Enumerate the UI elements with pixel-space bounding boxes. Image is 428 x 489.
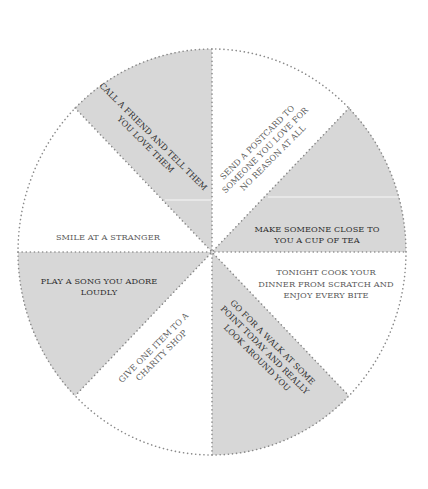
label-line: TONIGHT COOK YOUR xyxy=(276,267,376,277)
label-line: PLAY A SONG YOU ADORE xyxy=(41,276,158,286)
label-line: LOUDLY xyxy=(81,287,118,297)
label-line: MAKE SOMEONE CLOSE TO xyxy=(254,224,379,234)
label-line: SMILE AT A STRANGER xyxy=(56,232,161,242)
label-line: YOU A CUP OF TEA xyxy=(273,235,359,245)
activity-wheel: CALL A FRIEND AND TELL THEM YOU LOVE THE… xyxy=(0,0,428,489)
label-smile-stranger: SMILE AT A STRANGER xyxy=(56,232,161,242)
label-line: ENJOY EVERY BITE xyxy=(283,290,368,300)
label-line: DINNER FROM SCRATCH AND xyxy=(258,279,394,289)
